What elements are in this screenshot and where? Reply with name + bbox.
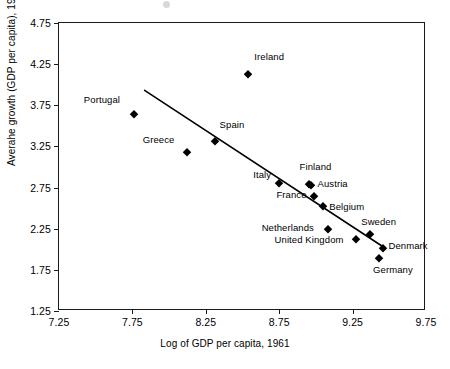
data-point-label: Portugal — [84, 94, 120, 105]
y-axis-tick — [54, 270, 59, 271]
x-axis-tick-label: 8.25 — [195, 316, 216, 328]
y-axis-title: Averahe growth (GDP per capita), 1961-20… — [6, 0, 17, 166]
y-axis-tick — [54, 146, 59, 147]
data-point-marker — [211, 137, 219, 145]
data-point-marker — [324, 225, 332, 233]
y-axis-tick-label: 3.25 — [30, 140, 51, 152]
data-point-label: Finland — [300, 161, 332, 172]
y-axis-tick-label: 2.25 — [30, 223, 51, 235]
data-point-marker — [130, 110, 138, 118]
data-point-label: Spain — [220, 119, 245, 130]
x-axis-title: Log of GDP per capita, 1961 — [0, 338, 450, 349]
data-point-label: Italy — [253, 169, 271, 180]
x-axis-tick — [132, 309, 133, 314]
data-point-label: Germany — [373, 264, 413, 275]
y-axis-tick-label: 4.25 — [30, 58, 51, 70]
data-point-marker — [380, 245, 388, 253]
x-axis-tick-label: 9.25 — [342, 316, 363, 328]
data-point-marker — [366, 230, 374, 238]
data-point-label: Austria — [317, 178, 347, 189]
y-axis-tick-label: 2.75 — [30, 182, 51, 194]
data-point-marker — [375, 254, 383, 262]
x-axis-tick — [279, 309, 280, 314]
x-axis-tick — [353, 309, 354, 314]
data-point-label: Sweden — [361, 216, 396, 227]
data-point-marker — [183, 148, 191, 156]
data-point-label: Ireland — [254, 51, 284, 62]
data-point-label: Denmark — [388, 240, 427, 251]
scan-artifact — [163, 1, 170, 8]
data-point-label: United Kingdom — [275, 234, 344, 245]
x-axis-tick-label: 7.25 — [49, 316, 70, 328]
y-axis-tick — [54, 311, 59, 312]
data-point-marker — [319, 202, 327, 210]
x-axis-tick-label: 7.75 — [122, 316, 143, 328]
y-axis-tick-label: 1.75 — [30, 264, 51, 276]
x-axis-tick-label: 8.75 — [269, 316, 290, 328]
y-axis-tick — [54, 64, 59, 65]
y-axis-tick-label: 3.75 — [30, 99, 51, 111]
data-point-marker — [244, 70, 252, 78]
y-axis-tick-label: 4.75 — [30, 17, 51, 29]
data-point-marker — [311, 192, 319, 200]
data-point-label: Netherlands — [262, 222, 314, 233]
data-point-marker — [275, 179, 283, 187]
plot-area: 4.754.253.753.252.752.251.751.257.257.75… — [58, 22, 425, 310]
y-axis-tick — [54, 188, 59, 189]
data-point-label: Belgium — [329, 201, 364, 212]
scatter-plot-figure: Averahe growth (GDP per capita), 1961-20… — [0, 0, 450, 369]
data-point-label: Greece — [143, 134, 175, 145]
y-axis-tick — [54, 23, 59, 24]
y-axis-tick — [54, 105, 59, 106]
data-point-label: France — [276, 189, 306, 200]
y-axis-tick — [54, 229, 59, 230]
x-axis-tick-label: 9.75 — [416, 316, 437, 328]
x-axis-tick — [206, 309, 207, 314]
data-point-marker — [352, 235, 360, 243]
